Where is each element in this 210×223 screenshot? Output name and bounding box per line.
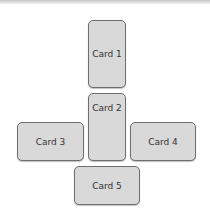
card-label: Card 2 — [92, 103, 122, 113]
card-3[interactable]: Card 3 — [17, 122, 84, 161]
card-4[interactable]: Card 4 — [130, 122, 196, 161]
card-5[interactable]: Card 5 — [74, 166, 140, 205]
card-label: Card 1 — [92, 49, 122, 59]
card-label: Card 3 — [36, 137, 66, 147]
card-1[interactable]: Card 1 — [88, 20, 126, 88]
card-label: Card 4 — [148, 137, 178, 147]
card-label: Card 5 — [92, 181, 122, 191]
cropped-text-strip — [0, 0, 210, 4]
card-2[interactable]: Card 2 — [88, 93, 126, 161]
